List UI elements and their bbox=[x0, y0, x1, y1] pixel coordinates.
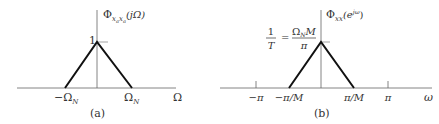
tick-label-pi-over-m: π/M bbox=[343, 92, 365, 103]
peak-label-b: 1 T = ΩNM π bbox=[266, 26, 317, 51]
svg-text:T: T bbox=[268, 40, 276, 51]
y-axis-label-b: Φxx(ejω) bbox=[326, 8, 364, 23]
triangle-spectrum-a bbox=[65, 42, 132, 88]
panel-a: Φxaxa(jΩ) 1 −ΩN ΩN Ω (a) bbox=[17, 8, 182, 120]
caption-a: (a) bbox=[90, 107, 105, 120]
panel-b: Φxx(ejω) 1 T = ΩNM π −π −π/M π/M π ω (b) bbox=[220, 8, 433, 120]
svg-text:=: = bbox=[281, 32, 289, 43]
x-axis-label-a: Ω bbox=[173, 91, 182, 104]
svg-text:π: π bbox=[300, 40, 308, 51]
tick-label-omega-n: ΩN bbox=[124, 91, 140, 106]
triangle-spectrum-b bbox=[289, 42, 354, 88]
tick-label-pi: π bbox=[384, 92, 392, 103]
caption-b: (b) bbox=[314, 107, 330, 120]
tick-label-neg-pi-over-m: −π/M bbox=[275, 92, 304, 103]
diagram-canvas: Φxaxa(jΩ) 1 −ΩN ΩN Ω (a) Φxx(ejω) 1 T = … bbox=[0, 0, 439, 124]
y-axis-label-a: Φxaxa(jΩ) bbox=[103, 8, 145, 24]
tick-label-neg-pi: −π bbox=[249, 92, 264, 103]
svg-text:ΩNM: ΩNM bbox=[292, 26, 317, 38]
tick-label-neg-omega-n: −ΩN bbox=[54, 91, 79, 106]
x-axis-label-b: ω bbox=[424, 91, 433, 104]
peak-label-a: 1 bbox=[89, 34, 96, 47]
svg-text:1: 1 bbox=[268, 26, 274, 37]
